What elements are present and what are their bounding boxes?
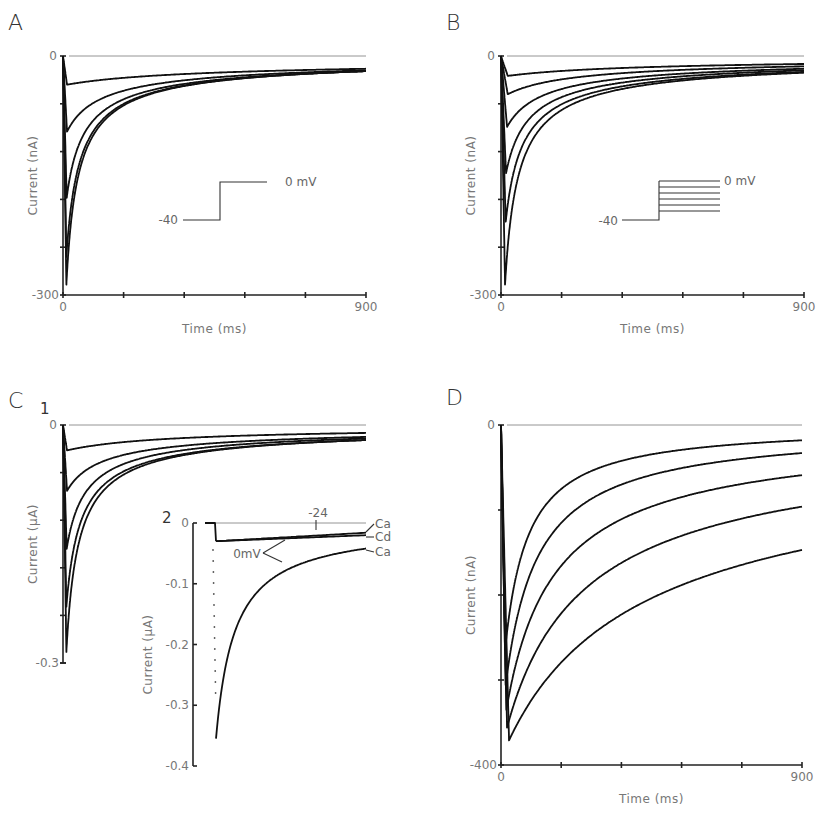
panel-c2: 0-0.1-0.2-0.3-0.4Current (µA)-240mVCaCdC… <box>141 506 391 773</box>
sample-dot <box>212 549 214 551</box>
trace-line <box>501 425 802 740</box>
panel-sublabel-c2: 2 <box>162 509 172 527</box>
protocol-step-label: 0 mV <box>285 175 317 189</box>
sample-dot <box>215 681 217 683</box>
panel-b: 0-300Current (nA)0900Time (ms)-400 mV <box>464 49 815 336</box>
y-tick-label: 0 <box>487 418 495 432</box>
panel-label-d: D <box>446 385 463 410</box>
trace-line <box>501 425 802 685</box>
trace-line <box>501 425 802 710</box>
panel-label-c: C <box>8 388 23 413</box>
y-tick-label: -0.3 <box>36 656 59 670</box>
x-axis-title: Time (ms) <box>619 322 685 336</box>
y-tick-label: 0 <box>49 49 57 63</box>
sample-dot <box>214 626 216 628</box>
protocol-holding-label: -40 <box>598 214 618 228</box>
voltage-protocol: -400 mV <box>158 175 317 227</box>
sample-dot <box>214 637 216 639</box>
annotation-solution-label: Ca <box>375 517 391 531</box>
protocol-holding-label: -40 <box>158 213 178 227</box>
trace-line <box>501 56 804 222</box>
protocol-holding-line <box>622 181 659 220</box>
sample-dot <box>213 571 215 573</box>
x-tick-label: 0 <box>59 300 67 314</box>
annotation-leader <box>263 540 285 553</box>
y-tick-label: 0 <box>49 418 57 432</box>
trace-line <box>501 425 802 728</box>
y-axis-title: Current (µA) <box>26 504 40 584</box>
y-tick-label: -300 <box>470 288 497 302</box>
x-axis-title: Time (ms) <box>181 322 247 336</box>
panel-sublabel-c1: 1 <box>40 400 50 418</box>
annotation-solution-label: Ca <box>375 545 391 559</box>
trace-line <box>216 549 366 739</box>
y-tick-label: -0.1 <box>166 577 189 591</box>
sample-dot <box>213 582 215 584</box>
panel-d: 0-400Current (nA)0900Time (ms) <box>464 418 813 806</box>
y-axis-title: Current (nA) <box>26 135 40 215</box>
x-axis-title: Time (ms) <box>618 792 684 806</box>
panel-c1: 0-0.3Current (µA) <box>26 418 366 670</box>
trace-line <box>63 56 366 285</box>
annotation-zero-label: 0mV <box>233 547 261 561</box>
annotation-leader <box>263 553 282 562</box>
sample-dot <box>214 659 216 661</box>
x-tick-label: 0 <box>497 770 505 784</box>
y-tick-label: 0 <box>181 516 189 530</box>
y-tick-label: 0 <box>487 49 495 63</box>
trace-line <box>216 535 366 541</box>
panel-label-b: B <box>446 10 460 35</box>
y-tick-label: -300 <box>32 288 59 302</box>
y-axis-title: Current (nA) <box>464 135 478 215</box>
y-axis-title: Current (µA) <box>141 614 155 694</box>
figure: A B C 1 2 D 0-300Current (nA)0900Time (m… <box>0 0 826 816</box>
trace-line <box>63 56 366 132</box>
annotation-leader <box>366 524 374 532</box>
sample-dot <box>213 593 215 595</box>
sample-dot <box>214 670 216 672</box>
protocol-step-label: 0 mV <box>724 174 756 188</box>
sample-dot <box>213 615 215 617</box>
sample-dot <box>212 560 214 562</box>
annotation-solution-label: Cd <box>375 530 391 544</box>
step-onset-line <box>205 523 216 541</box>
panel-a: 0-300Current (nA)0900Time (ms)-400 mV <box>26 49 377 336</box>
y-tick-label: -0.3 <box>166 698 189 712</box>
panel-label-a: A <box>8 10 23 35</box>
x-tick-label: 900 <box>791 770 814 784</box>
sample-dot <box>215 692 217 694</box>
sample-dot <box>214 648 216 650</box>
x-tick-label: 900 <box>355 300 378 314</box>
trace-line <box>63 56 366 257</box>
trace-line <box>501 425 802 650</box>
trace-line <box>501 56 804 76</box>
annotation-leader <box>366 550 374 552</box>
sample-dot <box>213 604 215 606</box>
y-tick-label: -0.4 <box>166 759 189 773</box>
voltage-protocol: -400 mV <box>598 174 756 228</box>
protocol-step-line <box>183 182 267 220</box>
x-tick-label: 900 <box>793 300 816 314</box>
annotation-step-label: -24 <box>308 506 328 520</box>
x-tick-label: 0 <box>497 300 505 314</box>
y-tick-label: -0.2 <box>166 638 189 652</box>
y-axis-title: Current (nA) <box>464 555 478 635</box>
y-tick-label: -400 <box>470 758 497 772</box>
trace-line <box>501 56 804 285</box>
